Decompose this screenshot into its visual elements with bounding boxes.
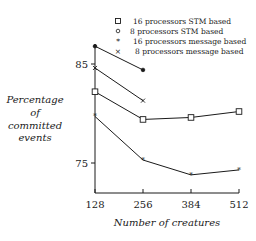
x-tick-label: 512: [229, 199, 248, 210]
svg-text:8 processors message based: 8 processors message based: [135, 47, 244, 56]
star-marker-icon: *: [237, 166, 241, 175]
cross-marker-icon: [141, 99, 145, 103]
square-marker-icon: [188, 115, 194, 121]
x-axis-title: Number of creatures: [113, 217, 220, 228]
star-marker-icon: *: [141, 156, 145, 165]
circle-marker-icon: [93, 44, 97, 48]
square-marker-icon: [140, 117, 146, 123]
square-marker-icon: [92, 89, 98, 95]
legend: 16 processors STM based 8 processors STM…: [115, 17, 247, 56]
star-marker-icon: *: [189, 171, 193, 180]
svg-text:events: events: [18, 132, 51, 143]
y-tick-label: 85: [75, 59, 88, 70]
svg-text:8 processors STM based: 8 processors STM based: [130, 27, 223, 36]
series-markers: ****: [92, 44, 242, 180]
legend-star-icon: *: [116, 37, 120, 46]
x-tick-label: 384: [181, 199, 200, 210]
series-line: [95, 92, 239, 120]
line-chart: 8575 128256384512 **** Number of creatur…: [0, 0, 256, 241]
square-marker-icon: [236, 109, 242, 115]
star-marker-icon: *: [93, 112, 97, 121]
svg-text:Percentage: Percentage: [5, 94, 63, 105]
legend-square-icon: [116, 19, 121, 24]
svg-text:16 processors message based: 16 processors message based: [133, 37, 246, 46]
y-tick-label: 75: [75, 158, 88, 169]
circle-marker-icon: [141, 68, 145, 72]
x-tick-label: 256: [133, 199, 152, 210]
svg-text:of: of: [30, 107, 42, 118]
svg-text:16 processors STM based: 16 processors STM based: [133, 17, 231, 26]
legend-circle-icon: [116, 29, 120, 33]
x-tick-label: 128: [85, 199, 104, 210]
legend-cross-icon: ×: [115, 47, 121, 56]
y-axis-title: Percentage of committed events: [5, 94, 63, 143]
svg-text:committed: committed: [8, 120, 62, 131]
series-line: [95, 116, 239, 174]
series-lines: [95, 46, 239, 175]
x-ticks: 128256384512: [85, 189, 248, 210]
